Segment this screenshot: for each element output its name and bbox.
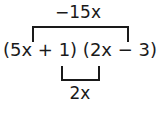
inner-product-label: 2x (70, 85, 91, 102)
outer-bracket-top-line (32, 26, 129, 28)
inner-bracket-right-leg (98, 66, 100, 80)
outer-product-label: −15x (55, 4, 101, 21)
inner-bracket-left-leg (61, 66, 63, 80)
binomial-expression: (5x + 1) (2x − 3) (3, 41, 157, 59)
inner-bracket-bottom-line (61, 79, 100, 81)
